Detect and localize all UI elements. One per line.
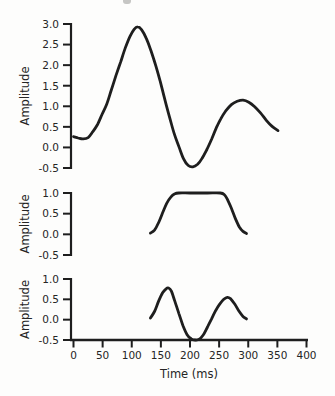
composite-waveform bbox=[74, 27, 279, 167]
windowed-component-panel: 1.00.50.0-0.5Amplitude050100150200250300… bbox=[18, 273, 317, 381]
x-tick-label: 250 bbox=[209, 349, 229, 361]
x-tick-label: 400 bbox=[296, 349, 316, 361]
x-tick-label: 100 bbox=[122, 349, 142, 361]
y-tick-label: 0.5 bbox=[42, 207, 59, 219]
x-tick-label: 350 bbox=[267, 349, 287, 361]
y-tick-label: -0.5 bbox=[39, 162, 60, 174]
window-panel: 1.00.50.0-0.5Amplitude bbox=[18, 187, 247, 261]
y-tick-label: -0.5 bbox=[39, 334, 60, 346]
y-tick-label: 0.5 bbox=[42, 293, 59, 305]
y-tick-label: 0.0 bbox=[42, 313, 59, 325]
x-tick-label: 0 bbox=[70, 349, 77, 361]
y-tick-label: 0.0 bbox=[42, 141, 59, 153]
x-tick-label: 300 bbox=[238, 349, 258, 361]
waveform-decomposition-figure: 3.02.52.01.51.00.50.0-0.5Amplitude1.00.5… bbox=[0, 0, 335, 396]
y-axis-title: Amplitude bbox=[18, 195, 32, 254]
y-tick-label: 2.0 bbox=[42, 59, 59, 71]
x-tick-label: 50 bbox=[96, 349, 109, 361]
x-axis-title: Time (ms) bbox=[159, 367, 218, 381]
windowed-waveform bbox=[150, 288, 246, 340]
y-axis-title: Amplitude bbox=[18, 67, 32, 126]
y-tick-label: 2.5 bbox=[42, 38, 59, 50]
y-tick-label: 1.0 bbox=[42, 187, 59, 199]
y-tick-label: 0.0 bbox=[42, 228, 59, 240]
y-tick-label: 3.0 bbox=[42, 18, 59, 30]
figure-page: 3.02.52.01.51.00.50.0-0.5Amplitude1.00.5… bbox=[0, 0, 335, 396]
x-tick-label: 200 bbox=[180, 349, 200, 361]
scan-artifact-mark bbox=[123, 0, 131, 4]
y-tick-label: 1.0 bbox=[42, 100, 59, 112]
y-tick-label: 1.5 bbox=[42, 80, 59, 92]
y-tick-label: 0.5 bbox=[42, 121, 59, 133]
y-tick-label: 1.0 bbox=[42, 273, 59, 285]
y-axis-title: Amplitude bbox=[18, 280, 32, 339]
composite-waveform-panel: 3.02.52.01.51.00.50.0-0.5Amplitude bbox=[18, 18, 278, 174]
trapezoid-window bbox=[150, 193, 246, 234]
y-tick-label: -0.5 bbox=[39, 249, 60, 261]
x-tick-label: 150 bbox=[151, 349, 171, 361]
